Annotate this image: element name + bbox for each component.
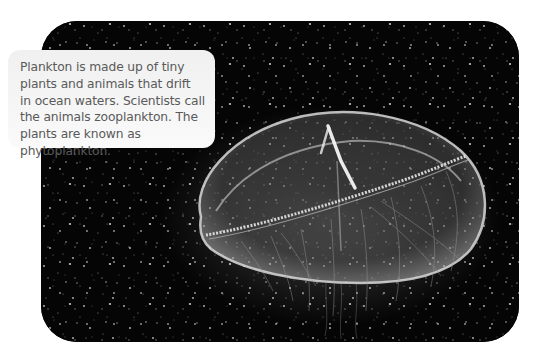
caption-text: Plankton is made up of tiny plants and a… (20, 60, 205, 158)
caption-box: Plankton is made up of tiny plants and a… (8, 50, 215, 148)
